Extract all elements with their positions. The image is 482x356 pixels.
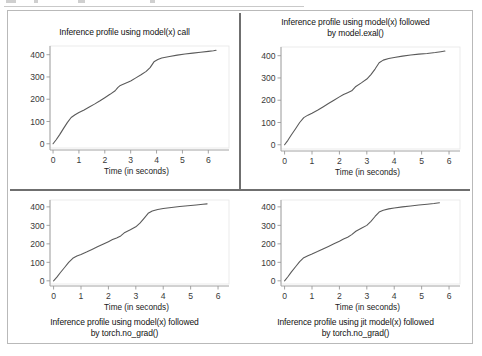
svg-text:3: 3 [128, 155, 133, 165]
svg-text:300: 300 [261, 221, 276, 231]
plot-area-bottom-right: 01002003004000123456Time (in seconds) [241, 192, 470, 316]
svg-text:5: 5 [188, 291, 193, 301]
svg-text:6: 6 [447, 156, 452, 166]
chart-panel-top-left: Inference profile using model(x) call 01… [10, 13, 239, 189]
svg-text:0: 0 [51, 155, 56, 165]
svg-text:2: 2 [106, 291, 111, 301]
svg-text:0: 0 [40, 139, 45, 149]
svg-text:100: 100 [30, 258, 45, 268]
scan-speck [150, 0, 155, 3]
svg-text:400: 400 [30, 202, 45, 212]
svg-text:Time (in seconds): Time (in seconds) [335, 303, 400, 312]
chart-title-top-left-line1: Inference profile using model(x) call [10, 13, 239, 38]
scan-speck [6, 0, 16, 3]
svg-text:5: 5 [419, 291, 424, 301]
plot-area-bottom-left: 01002003004000123456Time (in seconds) [10, 192, 239, 316]
figure-panel: Inference profile using model(x) call 01… [7, 10, 473, 344]
svg-text:4: 4 [392, 291, 397, 301]
svg-text:400: 400 [261, 202, 276, 212]
svg-text:100: 100 [261, 118, 276, 128]
svg-text:0: 0 [282, 291, 287, 301]
line-plot-top-left: 01002003004000123456Time (in seconds) [10, 38, 239, 180]
line-plot-top-right: 01002003004000123456Time (in seconds) [241, 39, 470, 181]
svg-text:2: 2 [102, 155, 107, 165]
chart-panel-bottom-right: 01002003004000123456Time (in seconds) In… [241, 192, 470, 341]
svg-text:200: 200 [261, 239, 276, 249]
chart-title-top-right-line1: Inference profile using model(x) followe… [241, 13, 470, 28]
line-plot-bottom-right: 01002003004000123456Time (in seconds) [241, 192, 470, 316]
svg-text:1: 1 [79, 291, 84, 301]
svg-text:0: 0 [51, 291, 56, 301]
svg-text:2: 2 [337, 156, 342, 166]
svg-text:6: 6 [216, 291, 221, 301]
chart-title-bottom-left-line1: Inference profile using model(x) followe… [10, 316, 239, 328]
svg-text:3: 3 [364, 291, 369, 301]
svg-text:1: 1 [310, 291, 315, 301]
scan-artifact-strip [0, 0, 482, 9]
svg-text:1: 1 [310, 156, 315, 166]
line-plot-bottom-left: 01002003004000123456Time (in seconds) [10, 192, 239, 316]
grid-divider-horizontal [10, 189, 470, 191]
chart-grid: Inference profile using model(x) call 01… [8, 11, 472, 343]
chart-title-bottom-right-line1: Inference profile using jit model(x) fol… [241, 316, 470, 328]
svg-text:200: 200 [30, 239, 45, 249]
svg-text:3: 3 [364, 156, 369, 166]
svg-text:3: 3 [133, 291, 138, 301]
svg-text:Time (in seconds): Time (in seconds) [104, 167, 169, 176]
chart-panel-bottom-left: 01002003004000123456Time (in seconds) In… [10, 192, 239, 341]
svg-text:2: 2 [337, 291, 342, 301]
svg-text:6: 6 [447, 291, 452, 301]
chart-title-top-right-line2: by model.exal() [241, 28, 470, 39]
chart-title-bottom-right-line2: by torch.no_grad() [241, 328, 470, 339]
chart-title-bottom-left-line2: by torch.no_grad() [10, 328, 239, 339]
svg-text:0: 0 [282, 156, 287, 166]
svg-text:100: 100 [261, 258, 276, 268]
svg-text:1: 1 [77, 155, 82, 165]
svg-text:Time (in seconds): Time (in seconds) [104, 303, 169, 312]
svg-text:0: 0 [40, 276, 45, 286]
svg-text:300: 300 [261, 73, 276, 83]
svg-text:300: 300 [30, 72, 45, 82]
svg-text:400: 400 [261, 51, 276, 61]
scan-rule-line [4, 6, 304, 7]
svg-text:300: 300 [30, 221, 45, 231]
plot-area-top-right: 01002003004000123456Time (in seconds) [241, 39, 470, 181]
svg-text:5: 5 [419, 156, 424, 166]
svg-text:5: 5 [180, 155, 185, 165]
chart-panel-top-right: Inference profile using model(x) followe… [241, 13, 470, 189]
svg-text:100: 100 [30, 117, 45, 127]
svg-text:200: 200 [30, 94, 45, 104]
svg-text:0: 0 [271, 276, 276, 286]
svg-text:6: 6 [206, 155, 211, 165]
plot-area-top-left: 01002003004000123456Time (in seconds) [10, 38, 239, 180]
svg-text:4: 4 [161, 291, 166, 301]
svg-text:4: 4 [392, 156, 397, 166]
svg-text:200: 200 [261, 95, 276, 105]
svg-text:4: 4 [154, 155, 159, 165]
svg-text:400: 400 [30, 50, 45, 60]
scan-speck [78, 0, 85, 3]
scan-speck [34, 0, 38, 3]
svg-text:0: 0 [271, 140, 276, 150]
svg-text:Time (in seconds): Time (in seconds) [335, 168, 400, 177]
